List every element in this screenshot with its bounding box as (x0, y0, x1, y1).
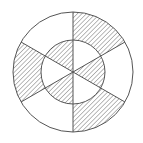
inner-disc-shaded-sector (73, 56, 105, 88)
inner-disc-shaded-sector (45, 72, 73, 104)
outer-ring-shaded-sector (73, 12, 125, 56)
outer-ring-shaded-sector (13, 42, 45, 102)
outer-ring-shaded-sector (73, 88, 125, 132)
inner-disc-shaded-sector (45, 40, 73, 72)
concentric-sector-diagram (0, 0, 143, 143)
